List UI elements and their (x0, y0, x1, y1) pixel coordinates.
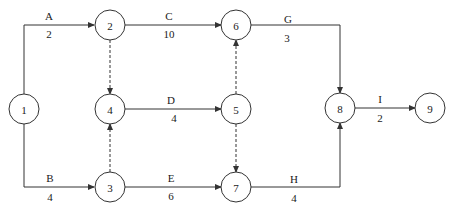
node-1: 1 (9, 94, 39, 124)
node-3-label: 3 (107, 182, 113, 194)
activity-c-duration: 10 (164, 28, 176, 40)
node-6-label: 6 (233, 20, 239, 32)
node-1-label: 1 (21, 104, 27, 116)
activity-g-duration: 3 (284, 32, 290, 44)
node-4-label: 4 (107, 104, 113, 116)
activity-i-name: I (378, 93, 382, 105)
node-4: 4 (95, 94, 125, 124)
activity-b-arrow (24, 124, 94, 187)
activity-b-duration: 4 (47, 191, 53, 203)
node-7: 7 (221, 172, 251, 202)
node-3: 3 (95, 172, 125, 202)
activity-g-name: G (284, 13, 292, 25)
activity-c-name: C (165, 10, 172, 22)
activity-h-duration: 4 (291, 192, 297, 204)
node-2: 2 (95, 10, 125, 40)
activity-a-name: A (45, 10, 53, 22)
node-2-label: 2 (107, 20, 113, 32)
activity-a-duration: 2 (46, 28, 52, 40)
activity-h-name: H (290, 173, 298, 185)
activity-a-arrow (24, 25, 94, 94)
activity-e-duration: 6 (168, 190, 174, 202)
activity-g-arrow (251, 25, 340, 93)
activity-b-name: B (46, 172, 53, 184)
activity-d-name: D (167, 94, 175, 106)
network-diagram: A 2 B 4 C 10 D 4 E 6 G 3 H 4 I 2 1 2 3 4… (0, 0, 452, 215)
node-5: 5 (221, 94, 251, 124)
activity-i-duration: 2 (377, 112, 383, 124)
activity-d-duration: 4 (171, 112, 177, 124)
node-6: 6 (221, 10, 251, 40)
node-9-label: 9 (427, 103, 433, 115)
node-8: 8 (325, 93, 355, 123)
activity-e-name: E (168, 172, 175, 184)
node-8-label: 8 (337, 103, 343, 115)
node-9: 9 (415, 93, 445, 123)
node-5-label: 5 (233, 104, 239, 116)
node-7-label: 7 (233, 182, 239, 194)
